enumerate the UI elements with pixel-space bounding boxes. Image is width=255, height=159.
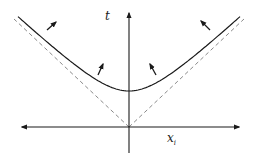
x-axis-label: xi bbox=[167, 131, 176, 147]
t-axis-label: t bbox=[105, 9, 110, 23]
hyperbola-diagram bbox=[0, 0, 255, 159]
arrow-icon bbox=[150, 64, 156, 75]
arrow-icon bbox=[98, 64, 103, 75]
arrow-icon bbox=[47, 22, 56, 30]
arrow-icon bbox=[201, 21, 210, 30]
